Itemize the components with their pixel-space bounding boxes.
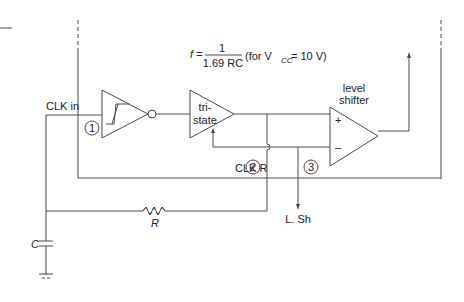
level-shifter-label-1: level: [343, 82, 366, 94]
svg-text:1.69 RC: 1.69 RC: [203, 57, 243, 69]
svg-text:–: –: [335, 141, 342, 153]
clk-in-wire: [46, 115, 102, 290]
node-1-marker: 1: [85, 121, 99, 135]
level-shifter-output-wire: [378, 56, 409, 131]
svg-text:+: +: [335, 114, 341, 126]
svg-text:= 10 V): = 10 V): [291, 50, 327, 62]
frequency-formula: f = 1 1.69 RC (for V CC = 10 V): [190, 42, 327, 69]
svg-text:state: state: [193, 114, 217, 126]
node-3-marker: 3: [304, 160, 318, 174]
up-arrow-icon: [407, 52, 411, 58]
enable-arrow-icon: [211, 128, 215, 133]
svg-text:f =: f =: [190, 48, 203, 60]
circuit-diagram: CLK in 1 tri- state L. Sh CLK R 2 3: [0, 0, 464, 302]
down-arrow-icon: [296, 204, 300, 210]
svg-text:(for V: (for V: [245, 50, 273, 62]
svg-text:2: 2: [250, 161, 256, 173]
level-shifter-comparator: + –: [330, 107, 378, 166]
schmitt-trigger-inverter: [102, 90, 156, 138]
hysteresis-icon: [106, 104, 130, 124]
level-shifter-label-2: shifter: [339, 94, 369, 106]
clk-in-label: CLK in: [46, 100, 79, 112]
capacitor-icon: [39, 241, 53, 246]
capacitor-label: C: [31, 238, 39, 250]
enable-feedback-wire: [213, 130, 330, 147]
svg-text:1: 1: [219, 42, 225, 54]
svg-text:1: 1: [89, 122, 95, 134]
svg-text:3: 3: [308, 161, 314, 173]
svg-text:tri-: tri-: [199, 101, 212, 113]
level-shift-label: L. Sh: [285, 213, 311, 225]
resistor-label: R: [151, 217, 159, 229]
